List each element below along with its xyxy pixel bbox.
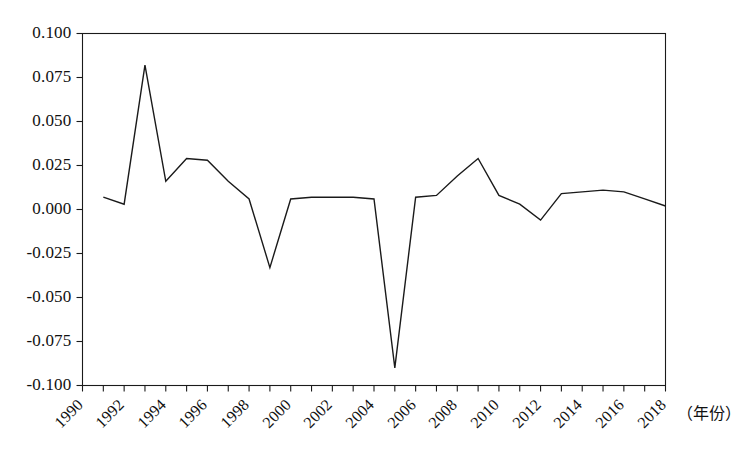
- x-axis-label: （年份）: [677, 400, 741, 424]
- data-series-group: [103, 65, 665, 368]
- y-tick-label: 0.025: [32, 155, 71, 175]
- y-tick-label: -0.050: [26, 287, 71, 307]
- y-tick-label: 0.100: [32, 23, 71, 43]
- data-line-series-1: [103, 65, 665, 368]
- chart-container: 0.1000.0750.0500.0250.000-0.025-0.050-0.…: [0, 0, 747, 470]
- x-axis-ticks: [83, 386, 666, 392]
- y-tick-label: -0.075: [26, 331, 71, 351]
- y-tick-label: -0.100: [26, 375, 71, 395]
- plot-frame: [83, 34, 666, 386]
- y-tick-label: 0.050: [32, 111, 71, 131]
- y-tick-label: 0.000: [32, 199, 71, 219]
- y-axis-ticks: [77, 34, 83, 386]
- y-tick-label: -0.025: [26, 243, 71, 263]
- y-tick-label: 0.075: [32, 67, 71, 87]
